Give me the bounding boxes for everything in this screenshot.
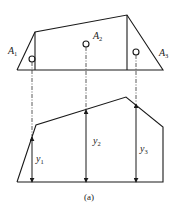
label-a1: A1	[7, 45, 17, 57]
top-plan-figure: A1 A2 A3	[7, 15, 168, 70]
label-a2: A2	[92, 30, 102, 42]
bottom-outline	[17, 97, 163, 182]
label-y3: y3	[139, 143, 148, 155]
figure-caption: (a)	[84, 192, 94, 202]
projection-lines	[32, 47, 136, 136]
centroid-marker-1	[29, 56, 35, 62]
area-projection-diagram: A1 A2 A3 y1 y2 y3 (a)	[0, 0, 178, 214]
centroid-marker-2	[83, 41, 89, 47]
centroid-marker-3	[133, 49, 139, 55]
top-outline	[17, 15, 163, 70]
label-y1: y1	[35, 153, 44, 165]
label-y2: y2	[92, 135, 101, 147]
bottom-profile-figure: y1 y2 y3	[17, 97, 163, 182]
label-a3: A3	[158, 47, 168, 59]
